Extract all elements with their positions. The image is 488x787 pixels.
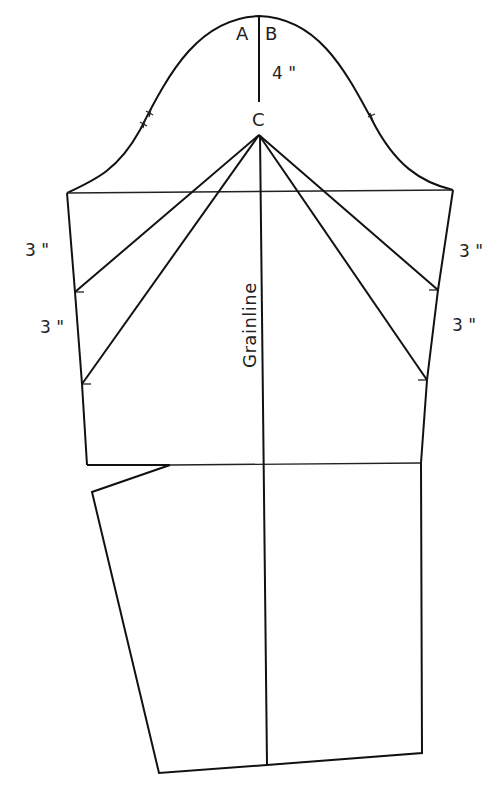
slash-line-left-lower (82, 135, 259, 384)
elbow-line (170, 463, 421, 465)
point-b-label: B (265, 23, 277, 44)
point-c-label: C (252, 109, 265, 130)
right-underarm-seam-upper (421, 190, 453, 463)
slash-line-left-upper (75, 135, 259, 292)
left-underarm-seam-upper (67, 193, 87, 465)
right-lower-measure: 3 " (452, 315, 476, 335)
sleeve-pattern-diagram: A B 4 " C 3 " 3 " 3 " 3 " Grainline (0, 0, 488, 787)
grainline (260, 135, 267, 765)
cap-height-label: 4 " (272, 63, 296, 83)
lower-sleeve-outline (92, 463, 422, 773)
left-upper-measure: 3 " (25, 240, 49, 260)
grainline-label: Grainline (239, 282, 260, 368)
left-lower-measure: 3 " (40, 317, 64, 337)
point-a-label: A (236, 23, 249, 44)
right-upper-measure: 3 " (459, 241, 483, 261)
